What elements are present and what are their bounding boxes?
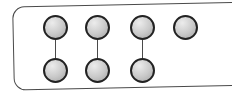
counter-circle <box>43 15 68 40</box>
counter-circle <box>130 15 155 40</box>
counter-column-2 <box>85 0 110 97</box>
counter-column-3 <box>130 0 155 97</box>
counter-circle <box>173 15 198 40</box>
counter-circle <box>85 58 110 83</box>
counter-column-4 <box>173 0 198 97</box>
counter-circle <box>85 15 110 40</box>
pair-connector-line <box>55 40 56 58</box>
counter-column-1 <box>43 0 68 97</box>
counter-circle <box>130 58 155 83</box>
pair-connector-line <box>142 40 143 58</box>
counters-layer <box>0 0 232 97</box>
pair-connector-line <box>97 40 98 58</box>
counter-circle <box>43 58 68 83</box>
